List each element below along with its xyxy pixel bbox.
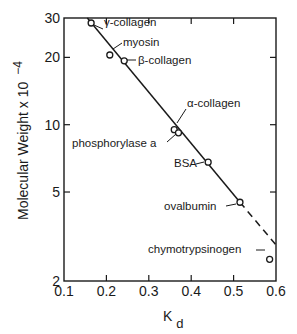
x-tick-label: 0.5	[224, 283, 244, 299]
data-point	[121, 58, 127, 64]
chart: 0.10.20.30.40.50.625102030 γ-collagenmyo…	[0, 0, 297, 334]
leader-line	[196, 162, 204, 164]
point-label: phosphorylase a	[72, 137, 157, 149]
data-point	[205, 159, 211, 165]
y-tick-label: 2	[52, 273, 60, 289]
x-tick-label: 0.4	[181, 283, 201, 299]
leader-line	[167, 134, 176, 142]
point-label: γ-collagen	[104, 16, 156, 28]
y-tick-label: 5	[52, 184, 60, 200]
point-label: ovalbumin	[164, 200, 216, 212]
leader-line	[177, 109, 186, 123]
x-tick-label: 0.3	[139, 283, 159, 299]
leader-line	[226, 204, 236, 206]
point-label: BSA	[174, 157, 197, 169]
x-tick-label: 0.6	[266, 283, 286, 299]
data-point	[267, 256, 273, 262]
point-label: β-collagen	[138, 54, 191, 66]
data-point	[237, 199, 243, 205]
point-label: myosin	[123, 36, 159, 48]
data-point	[88, 20, 94, 26]
point-label: α-collagen	[187, 97, 240, 109]
point-label: chymotrypsinogen	[148, 243, 241, 255]
y-tick-label: 20	[44, 49, 60, 65]
y-tick-label: 10	[44, 117, 60, 133]
data-point	[107, 52, 113, 58]
x-axis-title: K d	[163, 308, 183, 331]
fit-line-solid	[87, 18, 240, 202]
y-tick-label: 30	[44, 10, 60, 26]
leader-line	[113, 43, 122, 49]
data-point	[175, 130, 181, 136]
fit-line-dashed	[240, 202, 276, 245]
x-tick-label: 0.2	[97, 283, 117, 299]
y-axis-title: Molecular Weight x 10 −4	[11, 61, 31, 220]
